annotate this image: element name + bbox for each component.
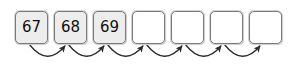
arrow-3-to-4 [147, 45, 182, 56]
arrow-4-to-5 [186, 45, 221, 56]
box-cell-1[interactable]: 68 [54, 11, 87, 44]
arrow-group [30, 45, 260, 56]
arrow-5-to-6 [225, 45, 260, 56]
box-cell-3[interactable] [132, 11, 165, 44]
box-cell-4[interactable] [171, 11, 204, 44]
box-cell-2[interactable]: 69 [93, 11, 126, 44]
box-cell-value-0: 67 [22, 20, 41, 35]
arrow-0-to-1 [30, 45, 65, 56]
box-cell-5[interactable] [210, 11, 243, 44]
box-cell-6[interactable] [249, 11, 282, 44]
arrow-1-to-2 [69, 45, 104, 56]
sequence-diagram: 676869 [0, 0, 307, 71]
arrow-2-to-3 [108, 45, 143, 56]
box-cell-value-1: 68 [61, 20, 80, 35]
box-cell-0[interactable]: 67 [15, 11, 48, 44]
box-cell-value-2: 69 [100, 20, 119, 35]
